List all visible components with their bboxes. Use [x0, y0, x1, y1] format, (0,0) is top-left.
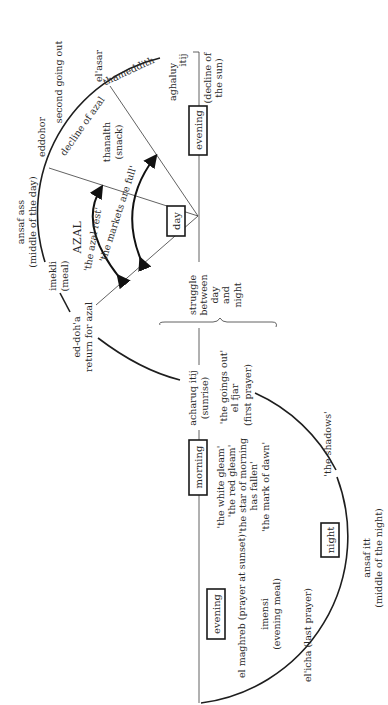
label-itij: itij	[177, 54, 188, 67]
label-ansaf-itt: ansaf itt	[361, 538, 372, 578]
svg-text:evening: evening	[193, 109, 204, 150]
label-aghaluy: aghaluy	[167, 62, 178, 101]
svg-text:day: day	[209, 286, 220, 304]
label-goings-out: 'the goings out'	[218, 350, 229, 424]
label-el-maghreb: el maghreb (prayer at sunset)	[236, 534, 247, 678]
struggle-bracket	[160, 318, 277, 327]
label-middle-day: (middle of the day)	[27, 176, 38, 267]
svg-text:morning: morning	[193, 445, 204, 488]
svg-text:and: and	[220, 286, 231, 304]
label-imensi: imensi	[259, 598, 270, 630]
period-box-night: night	[321, 523, 339, 557]
label-decline-sun-2: the sun)	[213, 58, 224, 97]
label-azal: AZAL	[71, 220, 84, 254]
period-box-morning: morning	[189, 440, 207, 495]
label-has-fallen: has fallen'	[248, 461, 259, 510]
label-return-azal: return for azal	[83, 302, 94, 372]
label-imekli: imekli	[47, 261, 58, 291]
label-evening-meal: (evening meal)	[271, 578, 282, 650]
label-el-asar: el'asar	[93, 50, 104, 82]
svg-text:struggle: struggle	[187, 275, 198, 316]
label-azal-rest: 'the azal rest'	[81, 206, 103, 272]
svg-text:between: between	[198, 274, 209, 315]
label-first-prayer: (first prayer)	[242, 364, 253, 426]
label-el-fjar: el fjar	[229, 383, 240, 412]
label-sunrise: (sunrise)	[199, 377, 210, 420]
svg-text:evening: evening	[211, 593, 222, 634]
label-mark-dawn: 'the mark of dawn'	[260, 442, 271, 532]
svg-text:night: night	[325, 527, 336, 554]
label-snack: (snack)	[113, 124, 124, 159]
label-meal: (meal)	[59, 261, 70, 292]
label-thanalth: thanalth	[101, 122, 112, 162]
day-night-diagram: day evening morning evening night aghalu…	[0, 0, 388, 705]
label-acharuq: acharuq itij	[187, 370, 198, 425]
label-star-morning: 'the star of morning	[237, 438, 248, 534]
label-el-icha: el'icha (last prayer)	[302, 588, 313, 682]
label-decline-sun-1: (decline of	[202, 51, 213, 103]
night-start-arc	[98, 338, 180, 380]
imekli-tick	[60, 293, 70, 312]
label-middle-night: (middle of the night)	[373, 508, 384, 607]
svg-text:night: night	[232, 282, 243, 307]
label-white-gleam: 'the white gleam'	[215, 446, 226, 529]
label-decline-azal: decline of azal	[58, 94, 107, 157]
label-ansaf-ass: ansaf ass	[15, 200, 26, 244]
period-box-evening-bottom: evening	[207, 589, 225, 639]
label-second-going-out: second going out	[53, 41, 64, 124]
label-ed-doha: ed-doh'a	[71, 316, 82, 357]
struggle-label: struggle between day and night	[187, 274, 243, 315]
period-box-evening-top: evening	[189, 106, 207, 155]
label-eddohor: eddohor	[36, 117, 47, 157]
svg-text:day: day	[171, 212, 182, 230]
label-thameddith: thameddith	[101, 54, 156, 87]
label-shadows: 'the shadows'	[322, 411, 333, 476]
period-box-day: day	[167, 206, 185, 236]
label-red-gleam: 'the red gleam'	[226, 445, 237, 517]
